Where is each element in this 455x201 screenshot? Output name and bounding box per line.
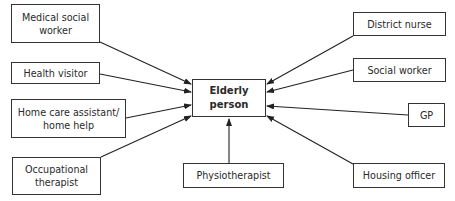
node-occupational-therapist: Occupational therapist: [12, 157, 101, 195]
node-label: worker: [39, 24, 72, 37]
node-label: therapist: [35, 176, 78, 189]
node-label: Health visitor: [23, 67, 87, 80]
center-label: person: [210, 98, 249, 112]
arrow-gp: [267, 106, 408, 115]
node-medical-social-worker: Medical social worker: [11, 4, 100, 43]
node-health-visitor: Health visitor: [11, 62, 100, 84]
node-label: home help: [43, 119, 94, 132]
arrow-medical-social-worker: [100, 42, 191, 84]
node-label: Social worker: [367, 64, 431, 77]
arrow-social-worker: [267, 70, 353, 92]
node-gp: GP: [408, 103, 445, 127]
node-label: District nurse: [367, 18, 432, 31]
node-district-nurse: District nurse: [353, 12, 446, 36]
node-label: Occupational: [25, 163, 88, 176]
node-label: Housing officer: [363, 169, 435, 182]
node-housing-officer: Housing officer: [353, 163, 445, 188]
center-label: Elderly: [209, 84, 248, 98]
node-home-care-assistant: Home care assistant/ home help: [11, 99, 126, 138]
arrow-housing-officer: [267, 116, 353, 164]
node-label: Home care assistant/: [18, 106, 119, 119]
node-label: Physiotherapist: [196, 169, 270, 182]
arrow-health-visitor: [100, 74, 191, 92]
arrow-home-care: [126, 105, 191, 118]
node-label: Medical social: [22, 11, 89, 24]
node-elderly-person: Elderly person: [192, 79, 266, 117]
node-social-worker: Social worker: [353, 58, 446, 82]
node-label: GP: [420, 109, 433, 122]
node-physiotherapist: Physiotherapist: [183, 163, 284, 188]
arrow-district-nurse: [267, 36, 353, 84]
